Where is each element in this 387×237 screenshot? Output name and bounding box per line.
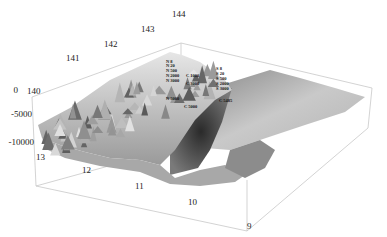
z-tick: -5000 — [11, 109, 32, 119]
y-tick: 13 — [36, 152, 46, 162]
y-tick: 10 — [188, 197, 198, 207]
surface-annotation: C 1000 — [186, 73, 200, 78]
box-edge-right-vertical — [368, 88, 372, 128]
x-tick: 140 — [27, 86, 41, 96]
surface-annotation: N 3000 — [166, 78, 180, 83]
y-tick: 12 — [82, 165, 91, 175]
box-edge-front-bottom — [36, 186, 247, 231]
surface-annotation: C 3000 — [186, 81, 200, 86]
x-tick: 142 — [104, 39, 118, 49]
y-tick: 9 — [247, 221, 252, 231]
surface-annotation: C 5485 — [219, 98, 233, 103]
z-tick: 0 — [14, 85, 19, 95]
x-tick: 143 — [141, 24, 155, 34]
surface-annotation: C 5000 — [184, 104, 198, 109]
surface-annotation: N 5000 — [166, 96, 180, 101]
z-tick: -10000 — [9, 137, 35, 147]
x-tick: 144 — [172, 9, 186, 19]
x-tick: 141 — [66, 53, 80, 63]
surface-annotation: S 3000 — [216, 86, 229, 91]
surface-plot: N 8N 20N 500N 2000N 3000N 5000C 1000C 30… — [0, 0, 387, 237]
y-tick: 11 — [135, 181, 144, 191]
